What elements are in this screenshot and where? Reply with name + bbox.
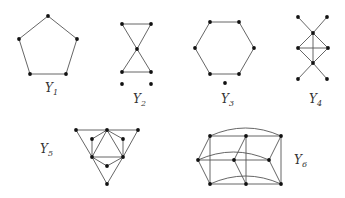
y1-edge <box>48 16 77 39</box>
y6-edge <box>269 136 281 160</box>
y3-edge <box>195 22 210 48</box>
y5-label-subscript: 5 <box>48 149 53 158</box>
y3-edge <box>239 48 254 74</box>
y4-edge <box>298 17 313 33</box>
y4-vertex <box>296 15 300 19</box>
y2-edge <box>122 24 137 49</box>
y5-edge <box>123 130 138 157</box>
y4-vertex <box>325 15 329 19</box>
y1-label-subscript: 1 <box>53 88 58 97</box>
y5-vertex <box>136 128 140 132</box>
y3-vertex <box>223 81 227 85</box>
y1-vertex <box>28 72 32 76</box>
y5-edge <box>76 130 92 157</box>
y4-edge <box>298 63 313 79</box>
y3-vertex <box>252 46 256 50</box>
y5-vertex <box>74 128 78 132</box>
y6-vertex <box>244 134 248 138</box>
y4-edge <box>298 48 313 63</box>
y3-vertex <box>237 72 241 76</box>
y5-vertex <box>105 164 109 168</box>
y6-vertex <box>208 182 212 186</box>
y2-vertex <box>135 47 139 51</box>
y4-edge <box>313 33 328 48</box>
y6-vertex <box>196 158 200 162</box>
y6-edge <box>234 160 246 184</box>
y1-vertex <box>46 14 50 18</box>
y6-vertex <box>232 158 236 162</box>
y3-label-subscript: 3 <box>229 99 234 108</box>
y4-vertex <box>311 61 315 65</box>
y4-edge <box>313 63 327 79</box>
y4-vertex <box>296 77 300 81</box>
y6-vertex <box>267 158 271 162</box>
y5-label: Y5 <box>40 142 53 158</box>
y1-edge <box>19 16 48 39</box>
y5-vertex <box>121 155 125 159</box>
y2-vertex <box>149 22 153 26</box>
y6-label: Y6 <box>294 153 307 169</box>
y1-vertex <box>75 37 79 41</box>
y3-edge <box>195 48 210 74</box>
y1-edge <box>19 39 30 74</box>
y2-vertex <box>120 70 124 74</box>
y4-edge <box>313 48 328 63</box>
y5-vertex <box>121 137 125 141</box>
y4-vertex <box>325 77 329 81</box>
y5-vertex <box>105 128 109 132</box>
y2-vertex <box>120 82 124 86</box>
y1-vertex <box>64 72 68 76</box>
y2-label-subscript: 2 <box>140 99 146 108</box>
y5-vertex <box>90 155 94 159</box>
y6-edge <box>198 160 210 184</box>
y6-vertex <box>208 134 212 138</box>
y6-vertex <box>279 182 283 186</box>
y1-edge <box>66 39 77 74</box>
y2-vertex <box>149 82 153 86</box>
y2-vertex <box>149 70 153 74</box>
y2-edge <box>137 24 151 49</box>
y4-label: Y4 <box>309 92 322 108</box>
y3-vertex <box>193 46 197 50</box>
y6-vertex <box>244 182 248 186</box>
y3-vertex <box>208 20 212 24</box>
y2-edge <box>137 49 151 72</box>
y4-vertex <box>326 46 330 50</box>
y4-vertex <box>296 46 300 50</box>
y4-vertex <box>311 31 315 35</box>
graph-figure: Y1Y2Y3Y4Y5Y6 <box>0 0 345 198</box>
y5-vertex <box>105 182 109 186</box>
y5-vertex <box>90 137 94 141</box>
y3-vertex <box>237 20 241 24</box>
y2-edge <box>122 49 137 72</box>
y2-label: Y2 <box>133 92 146 108</box>
y3-label: Y3 <box>221 92 234 108</box>
y6-edge <box>234 136 246 160</box>
y6-label-subscript: 6 <box>302 160 307 169</box>
y3-edge <box>239 22 254 48</box>
y4-label-subscript: 4 <box>316 99 322 108</box>
y1-label: Y1 <box>45 81 58 97</box>
y6-vertex <box>279 134 283 138</box>
y2-vertex <box>120 22 124 26</box>
y4-edge <box>298 33 313 48</box>
y4-edge <box>313 17 327 33</box>
y3-vertex <box>208 72 212 76</box>
y1-vertex <box>17 37 21 41</box>
